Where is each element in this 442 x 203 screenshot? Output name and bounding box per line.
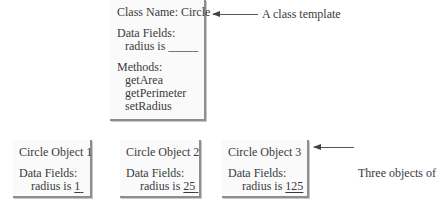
arrow-left-icon	[314, 147, 354, 148]
arrow-left-icon	[213, 14, 258, 15]
class-name: Class Name: Circle	[117, 6, 204, 19]
radius-value: 125	[285, 179, 303, 193]
object-title: Circle Object 3	[228, 146, 307, 159]
circle-object-3-box: Circle Object 3 Data Fields: radius is 1…	[222, 140, 309, 198]
radius-field: radius is _____	[117, 40, 204, 53]
radius-label: radius is	[140, 179, 183, 193]
class-template-box: Class Name: Circle Data Fields: radius i…	[110, 0, 206, 121]
object-title: Circle Object 1	[19, 146, 90, 159]
objects-annotation: Three objects of the Circle class	[358, 141, 436, 203]
class-template-annotation: A class template	[262, 8, 341, 21]
method-set-radius: setRadius	[117, 100, 204, 113]
circle-object-1-box: Circle Object 1 Data Fields: radius is 1	[13, 140, 92, 198]
radius-label: radius is	[242, 179, 285, 193]
radius-value: 25	[183, 179, 195, 193]
object-title: Circle Object 2	[126, 146, 199, 159]
radius-label: radius is	[31, 179, 74, 193]
circle-object-2-box: Circle Object 2 Data Fields: radius is 2…	[120, 140, 201, 198]
objects-annotation-line-1: Three objects of	[358, 167, 436, 180]
